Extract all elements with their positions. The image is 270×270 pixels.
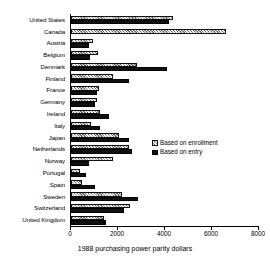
bar-group bbox=[71, 155, 258, 167]
x-axis-title: 1988 purchasing power parity dollars bbox=[0, 245, 270, 252]
category-label: Canada bbox=[0, 26, 68, 38]
category-label: United Kingdom bbox=[0, 214, 68, 226]
category-label: Belgium bbox=[0, 49, 68, 61]
bar-group bbox=[71, 85, 258, 97]
plot-area bbox=[70, 14, 258, 226]
bar-entry bbox=[71, 220, 106, 224]
category-label: Austria bbox=[0, 38, 68, 50]
category-label: Sweden bbox=[0, 191, 68, 203]
bar-entry bbox=[71, 43, 89, 47]
bar-chart: United StatesCanadaAustriaBelgiumDenmark… bbox=[0, 0, 270, 270]
bar-entry bbox=[71, 149, 132, 153]
bar-group bbox=[71, 191, 258, 203]
x-tick bbox=[117, 226, 118, 230]
x-tick-label: 6000 bbox=[204, 231, 218, 237]
x-tick bbox=[70, 226, 71, 230]
x-tick-label: 4000 bbox=[157, 231, 171, 237]
category-axis-labels: United StatesCanadaAustriaBelgiumDenmark… bbox=[0, 14, 68, 226]
category-label: Switzerland bbox=[0, 203, 68, 215]
category-label: Portugal bbox=[0, 167, 68, 179]
plot-wrapper: United StatesCanadaAustriaBelgiumDenmark… bbox=[0, 0, 270, 270]
bar-group bbox=[71, 38, 258, 50]
bar-entry bbox=[71, 126, 100, 130]
x-tick bbox=[164, 226, 165, 230]
chart-legend: Based on enrollmentBased on entry bbox=[152, 140, 218, 156]
category-label: Denmark bbox=[0, 61, 68, 73]
bar-enrollment bbox=[71, 29, 226, 33]
bar-entry bbox=[71, 20, 169, 24]
category-label: Spain bbox=[0, 179, 68, 191]
legend-label: Based on entry bbox=[160, 149, 202, 155]
category-label: Germany bbox=[0, 96, 68, 108]
bar-group bbox=[71, 49, 258, 61]
x-tick-label: 2000 bbox=[110, 231, 124, 237]
legend-swatch-icon bbox=[152, 150, 158, 156]
legend-item[interactable]: Based on enrollment bbox=[152, 140, 218, 146]
bar-group bbox=[71, 108, 258, 120]
bar-entry bbox=[71, 197, 138, 201]
bar-group bbox=[71, 73, 258, 85]
bar-entry bbox=[71, 55, 90, 59]
bar-group bbox=[71, 26, 258, 38]
bar-entry bbox=[71, 161, 89, 165]
bar-group bbox=[71, 96, 258, 108]
bar-entry bbox=[71, 185, 95, 189]
category-label: United States bbox=[0, 14, 68, 26]
category-label: Ireland bbox=[0, 108, 68, 120]
bar-entry bbox=[71, 208, 124, 212]
category-label: Japan bbox=[0, 132, 68, 144]
bar-group bbox=[71, 179, 258, 191]
bar-entry bbox=[71, 173, 86, 177]
bar-entry bbox=[71, 138, 129, 142]
category-label: Finland bbox=[0, 73, 68, 85]
x-tick bbox=[258, 226, 259, 230]
bar-group bbox=[71, 203, 258, 215]
bar-rows bbox=[71, 14, 258, 226]
category-label: France bbox=[0, 85, 68, 97]
legend-label: Based on enrollment bbox=[160, 140, 218, 146]
bar-entry bbox=[71, 91, 97, 95]
bar-group bbox=[71, 14, 258, 26]
bar-entry bbox=[71, 67, 167, 71]
x-tick-label: 0 bbox=[68, 231, 72, 237]
bar-group bbox=[71, 120, 258, 132]
legend-swatch-icon bbox=[152, 140, 158, 146]
category-label: Netherlands bbox=[0, 144, 68, 156]
bar-entry bbox=[71, 79, 129, 83]
legend-item[interactable]: Based on entry bbox=[152, 149, 218, 155]
x-tick-label: 8000 bbox=[251, 231, 265, 237]
category-label: Norway bbox=[0, 155, 68, 167]
bar-group bbox=[71, 61, 258, 73]
bar-entry bbox=[71, 102, 95, 106]
x-tick bbox=[211, 226, 212, 230]
bar-entry bbox=[71, 114, 109, 118]
bar-group bbox=[71, 214, 258, 226]
bar-group bbox=[71, 167, 258, 179]
category-label: Italy bbox=[0, 120, 68, 132]
